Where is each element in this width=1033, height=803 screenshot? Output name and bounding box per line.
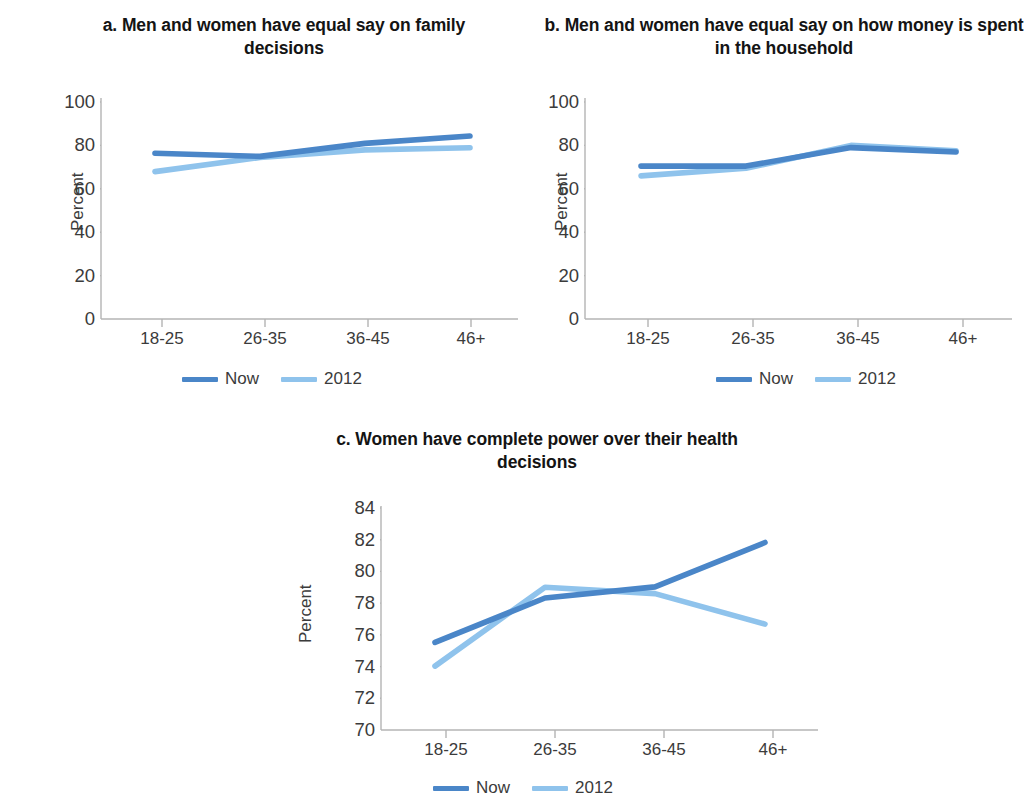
legend-item-2012: 2012	[815, 369, 896, 389]
legend-label-now: Now	[476, 778, 510, 798]
ytick: 80	[74, 134, 95, 156]
panel-b-plot: Percent 100 80 60 40 20 0 18-25 26-35	[536, 84, 1026, 344]
ytick: 60	[74, 178, 95, 200]
ytick: 0	[569, 308, 579, 330]
legend-item-now: Now	[433, 778, 510, 798]
panel-a-yaxis-ticks: 100 80 60 40 20 0	[52, 84, 95, 319]
panel-c: c. Women have complete power over their …	[290, 428, 770, 803]
ytick: 76	[354, 624, 375, 646]
legend-item-now: Now	[716, 369, 793, 389]
legend-swatch-2012-icon	[815, 377, 851, 382]
ytick: 0	[85, 308, 95, 330]
ytick: 78	[354, 592, 375, 614]
xtick: 36-45	[346, 329, 389, 349]
series-2012-line	[435, 587, 765, 666]
panel-b-title: b. Men and women have equal say on how m…	[544, 14, 1024, 60]
legend-label-2012: 2012	[575, 778, 613, 798]
ytick: 100	[548, 91, 579, 113]
xtick: 46+	[457, 329, 486, 349]
ytick: 40	[558, 221, 579, 243]
panel-b-svg	[584, 84, 1014, 334]
ytick: 80	[354, 560, 375, 582]
panel-a-axes	[100, 98, 518, 327]
panel-c-legend: Now 2012	[433, 778, 613, 798]
panel-a-title: a. Men and women have equal say on famil…	[64, 14, 504, 60]
legend-label-2012: 2012	[858, 369, 896, 389]
panel-a: a. Men and women have equal say on famil…	[52, 14, 522, 414]
legend-item-2012: 2012	[532, 778, 613, 798]
ytick: 20	[558, 265, 579, 287]
xtick: 26-35	[533, 740, 576, 760]
ytick: 72	[354, 687, 375, 709]
panel-a-legend: Now 2012	[182, 369, 362, 389]
xtick: 26-35	[731, 329, 774, 349]
legend-swatch-now-icon	[716, 377, 752, 382]
panel-a-plot: Percent 100 80 60 40 20 0 18-25 26-35	[52, 84, 522, 344]
ytick: 70	[354, 719, 375, 741]
ytick: 60	[558, 178, 579, 200]
panel-a-svg	[100, 84, 520, 334]
ytick: 80	[558, 134, 579, 156]
legend-label-2012: 2012	[324, 369, 362, 389]
panel-c-title: c. Women have complete power over their …	[312, 428, 762, 474]
legend-label-now: Now	[759, 369, 793, 389]
xtick: 26-35	[243, 329, 286, 349]
xtick: 46+	[949, 329, 978, 349]
ytick: 74	[354, 656, 375, 678]
legend-item-2012: 2012	[281, 369, 362, 389]
panel-c-svg	[380, 498, 820, 748]
legend-swatch-now-icon	[182, 377, 218, 382]
ytick: 84	[354, 497, 375, 519]
series-now-line	[641, 148, 956, 167]
xtick: 46+	[759, 740, 788, 760]
ytick: 100	[64, 91, 95, 113]
xtick: 18-25	[424, 740, 467, 760]
legend-swatch-now-icon	[433, 786, 469, 791]
xtick: 36-45	[642, 740, 685, 760]
panel-b: b. Men and women have equal say on how m…	[536, 14, 1026, 414]
panel-c-plot: Percent 84 82 80 78 76 74 72 70	[290, 498, 770, 748]
legend-item-now: Now	[182, 369, 259, 389]
legend-label-now: Now	[225, 369, 259, 389]
panel-b-axes	[584, 98, 1012, 327]
ytick: 82	[354, 529, 375, 551]
panel-c-yaxis-ticks: 84 82 80 78 76 74 72 70	[290, 498, 375, 730]
legend-swatch-2012-icon	[532, 786, 568, 791]
xtick: 18-25	[140, 329, 183, 349]
legend-swatch-2012-icon	[281, 377, 317, 382]
ytick: 40	[74, 221, 95, 243]
panel-b-legend: Now 2012	[716, 369, 896, 389]
ytick: 20	[74, 265, 95, 287]
xtick: 36-45	[836, 329, 879, 349]
xtick: 18-25	[626, 329, 669, 349]
panel-b-yaxis-ticks: 100 80 60 40 20 0	[536, 84, 579, 319]
